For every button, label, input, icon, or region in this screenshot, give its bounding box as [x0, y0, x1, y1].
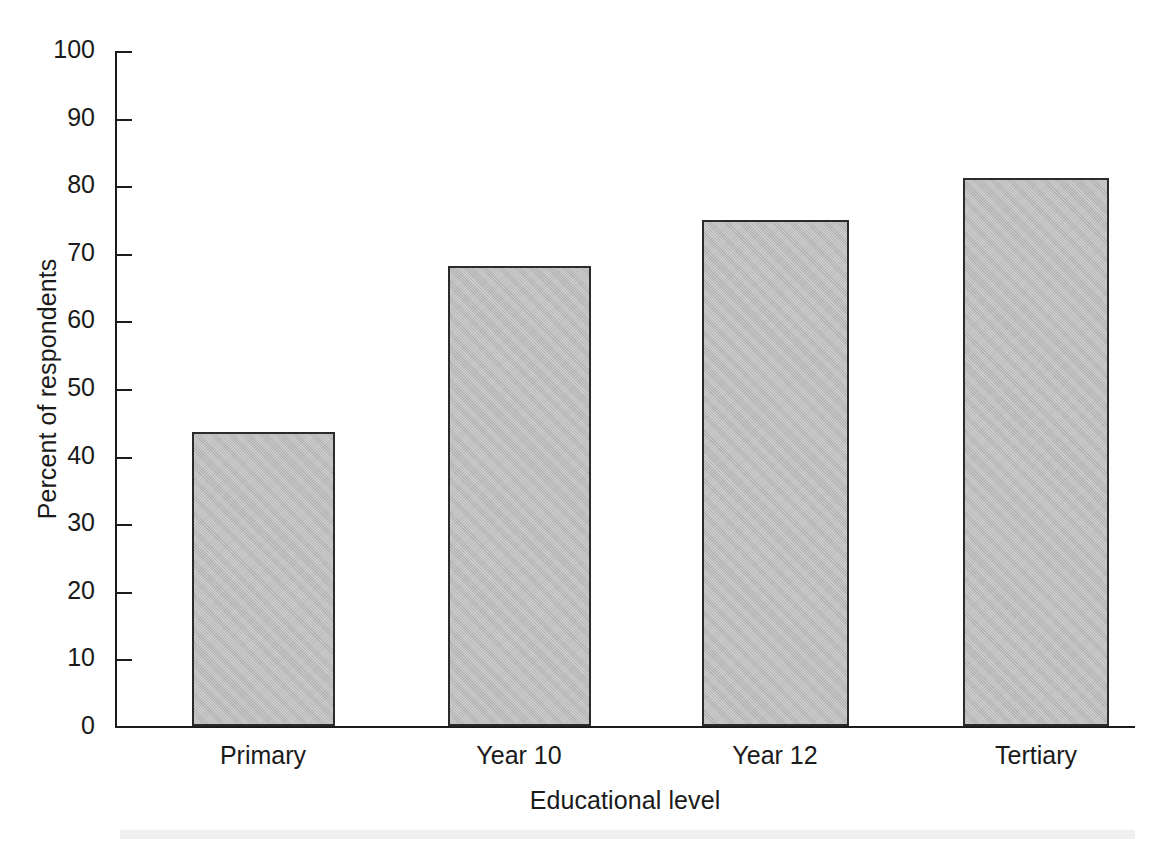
y-tick-label-10: 10	[0, 643, 95, 672]
y-tick-label-90: 90	[0, 103, 95, 132]
bar-tertiary	[963, 178, 1109, 726]
bar-primary	[192, 432, 335, 726]
y-tick-label-20: 20	[0, 576, 95, 605]
y-tick-label-70: 70	[0, 238, 95, 267]
y-tick-label-80: 80	[0, 170, 95, 199]
y-tick-90	[117, 119, 132, 121]
plot-area: 100 90 80 70 60 50 40 30 20 10 0 Primary…	[115, 51, 1135, 727]
y-tick-30	[117, 524, 132, 526]
y-tick-80	[117, 186, 132, 188]
x-tick-label-primary: Primary	[163, 741, 363, 770]
y-tick-100	[117, 51, 132, 53]
y-tick-label-60: 60	[0, 305, 95, 334]
bar-year-12	[702, 220, 849, 726]
y-tick-label-50: 50	[0, 373, 95, 402]
y-tick-label-100: 100	[0, 35, 95, 64]
y-tick-label-40: 40	[0, 441, 95, 470]
y-tick-70	[117, 254, 132, 256]
x-tick-label-tertiary: Tertiary	[936, 741, 1136, 770]
x-axis-line	[115, 726, 1135, 728]
y-tick-20	[117, 592, 132, 594]
y-tick-label-0: 0	[0, 711, 95, 740]
x-tick-label-year-10: Year 10	[419, 741, 619, 770]
y-tick-60	[117, 321, 132, 323]
x-axis-label: Educational level	[115, 786, 1135, 815]
y-tick-label-30: 30	[0, 508, 95, 537]
bar-year-10	[448, 266, 591, 726]
y-tick-10	[117, 659, 132, 661]
x-tick-label-year-12: Year 12	[675, 741, 875, 770]
bar-chart-figure: Percent of respondents 100 90 80 70 60 5…	[0, 0, 1157, 851]
scan-artifact-band	[120, 830, 1135, 839]
y-tick-50	[117, 389, 132, 391]
y-tick-40	[117, 457, 132, 459]
